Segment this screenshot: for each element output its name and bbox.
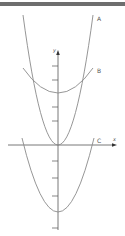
x-axis-arrow-icon xyxy=(112,143,117,147)
label-x: x xyxy=(112,136,116,142)
y-axis-arrow-icon xyxy=(56,50,60,55)
parabola-diagram: A B C x y xyxy=(0,0,125,236)
label-b: B xyxy=(97,67,101,74)
y-ticks xyxy=(52,66,58,228)
label-c: C xyxy=(97,137,101,144)
label-a: A xyxy=(97,15,102,22)
label-y: y xyxy=(52,47,57,54)
